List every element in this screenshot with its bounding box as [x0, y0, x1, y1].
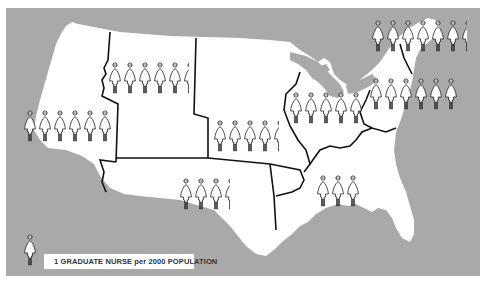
us-pictogram-map	[0, 0, 486, 288]
legend-label: 1 GRADUATE NURSE per 2000 POPULATION	[54, 257, 217, 266]
legend: 1 GRADUATE NURSE per 2000 POPULATION	[44, 254, 194, 269]
